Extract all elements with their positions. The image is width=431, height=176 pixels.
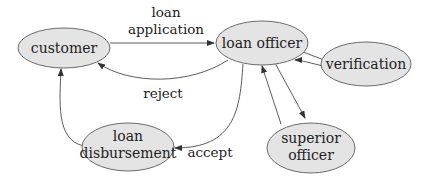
node-superior-officer-line2: officer [288,147,334,163]
edge-from-superior [262,66,281,124]
edge-label-reject: reject [143,85,183,101]
node-loan-officer: loan officer [216,21,308,65]
node-verification-label: verification [325,56,406,72]
edge-reject [98,60,228,79]
edge-to-superior [275,63,305,118]
node-customer-label: customer [31,40,98,56]
edge-label-loan: loan [151,4,180,20]
node-superior-officer: superior officer [267,123,355,173]
edge-label-application: application [128,21,204,37]
node-loan-officer-label: loan officer [222,35,303,51]
node-loan-disbursement-line1: loan [113,128,143,144]
node-loan-disbursement-line2: disbursement [80,145,177,161]
node-customer: customer [18,28,110,68]
node-verification: verification [321,42,411,86]
workflow-diagram: customer loan officer verification super… [0,0,431,176]
node-loan-disbursement: loan disbursement [80,123,177,171]
edge-disburse [60,69,84,146]
node-superior-officer-line1: superior [281,130,341,146]
edge-label-accept: accept [187,144,233,160]
